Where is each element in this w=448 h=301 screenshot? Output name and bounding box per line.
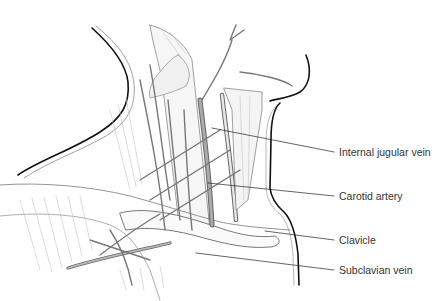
label-subclavian-vein: Subclavian vein bbox=[339, 264, 413, 276]
label-internal-jugular-vein: Internal jugular vein bbox=[339, 146, 431, 158]
label-clavicle: Clavicle bbox=[339, 234, 376, 246]
chin-outline bbox=[270, 55, 309, 101]
leader-lines bbox=[196, 128, 334, 270]
neck-posterior-outline bbox=[18, 28, 128, 175]
label-carotid-artery: Carotid artery bbox=[339, 190, 403, 202]
throat-outline bbox=[270, 103, 299, 285]
